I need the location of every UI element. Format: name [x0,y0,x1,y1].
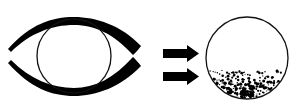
sediment-particle [262,91,264,93]
sediment-particle [266,81,269,84]
sediment-particle [262,79,265,82]
sediment-particle [259,80,261,82]
sediment-particle [209,70,211,72]
sediment-particle [237,76,239,78]
sediment-particle [236,93,238,95]
sediment-particle [234,85,237,88]
sediment-particle [259,77,261,79]
sediment-particle [271,78,272,79]
sediment-particle [267,89,268,90]
sediment-particle [237,84,239,86]
sediment-particle [231,77,233,79]
sediment-particle [231,81,233,83]
sediment-particle [232,83,234,85]
sediment-particle [221,79,224,82]
sediment-particle [216,79,217,80]
sediment-particle [230,83,233,86]
sediment-particle [213,71,214,72]
sediment-particle [257,82,260,85]
sediment-particle [232,91,234,93]
sediment-particle [242,74,244,76]
sediment-particle [215,72,216,73]
sediment-particle [236,72,237,73]
sediment-particle [226,87,229,90]
sediment-particle [253,79,256,82]
sediment-particle [278,81,279,82]
sediment-particle [216,82,218,84]
sediment-particle [238,70,240,72]
sediment-particle [268,87,270,89]
sediment-particle [269,81,272,84]
sediment-particle [249,81,252,84]
sediment-particle [250,91,254,95]
sediment-particle [262,75,263,76]
sediment-particle [243,72,244,73]
sediment-particle [223,81,226,84]
sediment-particle [241,80,244,83]
sediment-particle [250,87,253,90]
sediment-particle [227,78,230,81]
sediment-particle [268,84,269,85]
sediment-particle [267,75,270,78]
sediment-particle [233,88,234,89]
sediment-particle [272,81,275,84]
sediment-particle [257,90,259,92]
sediment-particle [265,76,266,77]
sediment-particle [266,90,267,91]
sediment-particle [255,88,257,90]
canvas-background [0,0,300,112]
sediment-particle [218,79,219,80]
sediment-particle [256,85,259,88]
sediment-particle [280,72,282,74]
sediment-particle [269,88,271,90]
sediment-particle [223,86,224,87]
sediment-particle [242,93,246,97]
sediment-particle [236,82,238,84]
sediment-particle [250,85,253,88]
sediment-particle [217,72,219,74]
sediment-particle [237,79,240,82]
sediment-particle [243,96,245,98]
sediment-particle [229,81,230,82]
sediment-particle [219,73,221,75]
sediment-particle [221,74,224,77]
sediment-particle [247,74,249,76]
sediment-particle [236,95,237,96]
diagram-canvas [0,0,300,112]
sediment-particle [273,84,275,86]
sediment-particle [239,70,240,71]
sediment-particle [242,86,244,88]
sediment-particle [227,75,230,78]
sediment-particle [259,82,262,85]
sediment-particle [221,86,224,89]
sediment-particle [243,89,246,92]
sediment-particle [245,74,246,75]
sediment-particle [221,70,222,71]
sediment-particle [222,82,223,83]
sediment-particle [223,88,224,89]
sediment-particle [261,72,263,74]
sediment-particle [228,73,230,75]
sediment-particle [227,90,230,93]
sediment-particle [256,71,258,73]
sediment-particle [264,86,267,89]
diagram-figure: Eye with clear lens transforming into le… [0,0,300,112]
sediment-particle [249,74,251,76]
sediment-particle [260,90,262,92]
sediment-particle [240,86,242,88]
sediment-particle [240,72,243,75]
sediment-particle [226,71,228,73]
sediment-particle [213,78,216,81]
sediment-particle [259,93,261,95]
sediment-particle [256,94,257,95]
sediment-particle [276,72,277,73]
sediment-particle [233,74,235,76]
sediment-particle [235,78,237,80]
sediment-particle [245,84,246,85]
sediment-particle [243,79,245,81]
sediment-particle [264,78,265,79]
sediment-particle [245,93,248,96]
sediment-particle [276,82,277,83]
sediment-particle [264,71,265,72]
sediment-particle [249,79,250,80]
